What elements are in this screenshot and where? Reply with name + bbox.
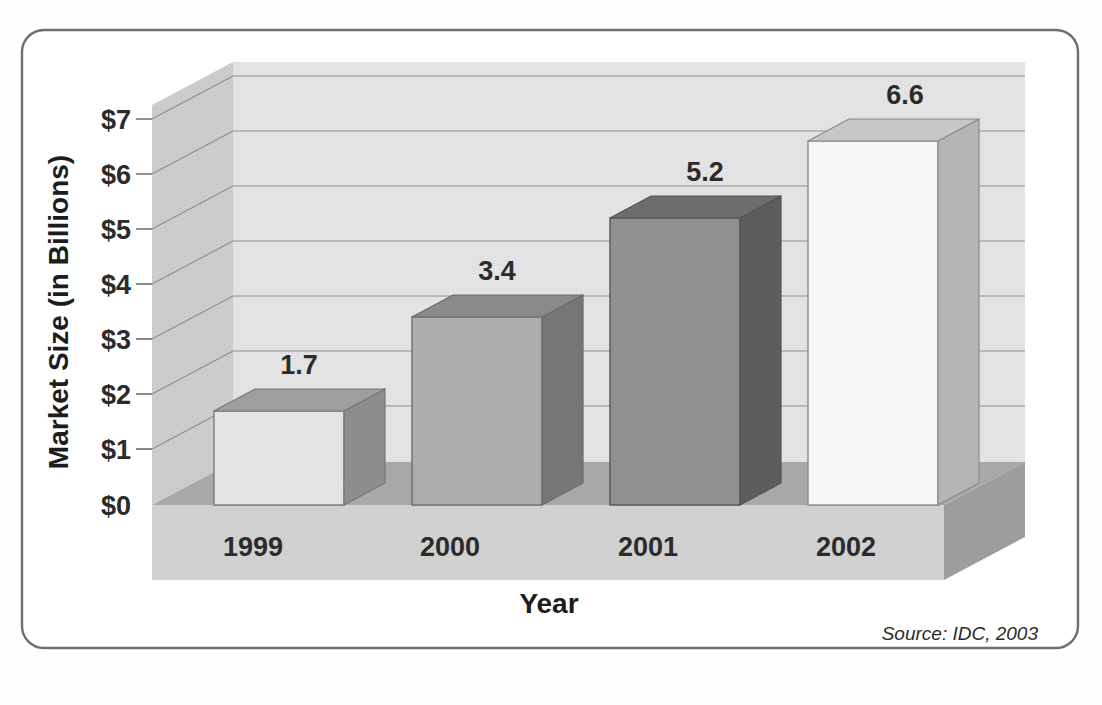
bar-2001-side-face	[740, 196, 781, 505]
x-tick-label-2001: 2001	[618, 532, 678, 562]
market-size-3d-bar-chart: 1.7 3.4 5.2 6.6 1999 2000 2001 2002 $0 $…	[0, 0, 1102, 705]
value-label-1999: 1.7	[280, 350, 318, 380]
bar-2000-texture	[412, 317, 542, 505]
y-tick-label-5: $5	[101, 215, 131, 245]
plot-region: 1.7 3.4 5.2 6.6 1999 2000 2001 2002	[136, 62, 1025, 580]
bar-2002-texture	[808, 141, 938, 505]
bar-1999[interactable]	[214, 389, 385, 505]
x-axis-title: Year	[519, 588, 578, 619]
value-label-2002: 6.6	[886, 80, 924, 110]
y-tick-label-7: $7	[101, 105, 131, 135]
y-tick-label-0: $0	[101, 491, 131, 521]
y-tick-label-6: $6	[101, 160, 131, 190]
y-tick-label-3: $3	[101, 325, 131, 355]
bar-1999-texture	[214, 411, 344, 505]
bar-2000[interactable]	[412, 295, 583, 505]
y-axis-title: Market Size (in Billions)	[43, 155, 74, 469]
bar-2002-side-face	[938, 119, 979, 505]
value-label-2001: 5.2	[686, 157, 724, 187]
y-tick-label-4: $4	[101, 270, 131, 300]
x-tick-label-1999: 1999	[223, 532, 283, 562]
bar-2001-texture	[610, 218, 740, 505]
y-tick-label-1: $1	[101, 435, 131, 465]
chart-screenshot: 1.7 3.4 5.2 6.6 1999 2000 2001 2002 $0 $…	[0, 0, 1102, 705]
bar-2001[interactable]	[610, 196, 781, 505]
source-note: Source: IDC, 2003	[882, 623, 1039, 644]
value-label-2000: 3.4	[478, 256, 516, 286]
x-tick-label-2000: 2000	[420, 532, 480, 562]
bar-2002[interactable]	[808, 119, 979, 505]
bar-2000-side-face	[542, 295, 583, 505]
y-tick-label-2: $2	[101, 380, 131, 410]
x-tick-label-2002: 2002	[816, 532, 876, 562]
